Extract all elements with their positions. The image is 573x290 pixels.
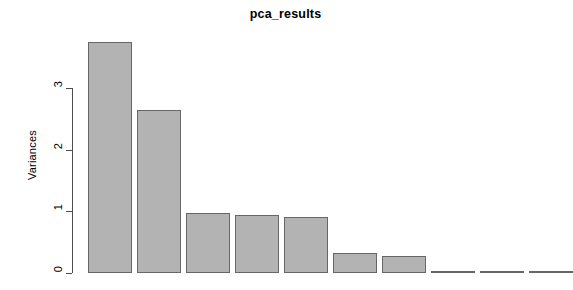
y-tick-2 (66, 150, 72, 151)
bar-5 (284, 217, 328, 273)
y-tick-1 (66, 211, 72, 212)
bar-3 (186, 213, 230, 273)
bar-7 (382, 256, 426, 273)
page-title: pca_results (0, 7, 515, 21)
bar-8 (431, 271, 475, 273)
bar-6 (333, 253, 377, 273)
y-axis-line (72, 88, 73, 273)
y-tick-label-3: 3 (52, 81, 66, 87)
y-tick-0 (66, 273, 72, 274)
bar-4 (235, 215, 279, 273)
y-tick-3 (66, 88, 72, 89)
bar-9 (480, 271, 524, 273)
y-tick-label-0: 0 (52, 266, 66, 272)
chart-title-text: pca_results (250, 7, 322, 21)
plot-area (78, 30, 508, 273)
y-axis-label: Variances (24, 100, 40, 210)
y-tick-label-2: 2 (52, 143, 66, 149)
bar-10 (529, 271, 573, 273)
bar-1 (88, 42, 132, 273)
bar-2 (137, 110, 181, 273)
y-tick-label-1: 1 (52, 204, 66, 210)
